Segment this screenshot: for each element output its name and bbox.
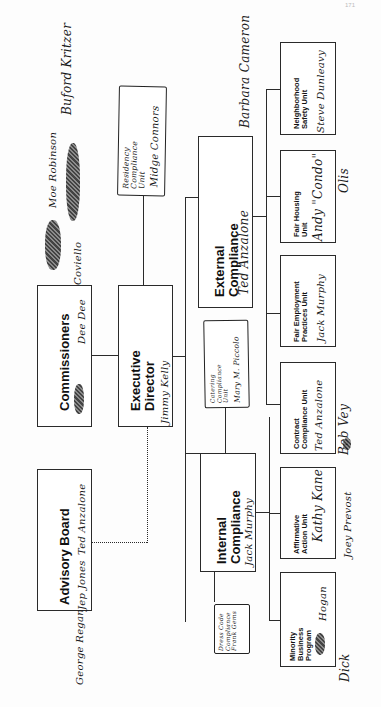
- scribbled-name: [66, 143, 80, 221]
- unit-handwritten-name-2: Joey Prevost: [342, 491, 353, 558]
- connector-spine-external: [185, 197, 198, 198]
- scribbled-name: [343, 438, 351, 450]
- dotted-exec-advisory-v: [147, 427, 148, 543]
- unit-label-line2: Action Unit: [301, 514, 309, 554]
- internal-label-line1: Internal: [215, 490, 229, 564]
- handwritten-moe-robinson: Moe Robinson: [47, 132, 58, 208]
- scribbled-name: [315, 633, 325, 655]
- unit-handwritten-name: Steve Dunleavy: [315, 50, 326, 133]
- unit-affirmative-action: Affirmative Action Unit Kathy Kane: [280, 467, 336, 559]
- unit-label: Contract Compliance Unit: [293, 390, 309, 449]
- external-compliance-box: External Compliance Ted Anzalone: [198, 136, 253, 308]
- executive-director-box: Executive Director Jimmy Kelly: [118, 285, 173, 427]
- unit-label-line3: Program: [305, 628, 313, 661]
- executive-director-handwritten-name: Jimmy Kelly: [159, 361, 170, 424]
- unit-handwritten-name: Ted Anzalone: [313, 380, 324, 451]
- external-compliance-handwritten-name: Ted Anzalone: [239, 210, 250, 295]
- unit-handwritten-name: Andy "Condo": [313, 153, 324, 241]
- unit-minority-business: Minority Business Program Hogan: [280, 572, 336, 667]
- note-line: Unit: [222, 364, 229, 403]
- connector-residency-note: [143, 196, 144, 285]
- scanned-document-page: 171 Commissioners Dee Dee Executive Dire…: [0, 0, 381, 707]
- unit-handwritten-name-2: Olis: [339, 168, 350, 193]
- unit-label-line2: Compliance Unit: [301, 390, 309, 449]
- external-label-line1: External: [213, 223, 227, 297]
- advisory-board-label: Advisory Board: [58, 508, 71, 605]
- commissioners-label: Commissioners: [58, 313, 71, 411]
- connector-catering-note: [225, 408, 226, 453]
- handwritten-jep-jones: Jep Jones: [76, 560, 87, 610]
- unit-neighborhood-safety: Neighborhood Safety Unit Steve Dunleavy: [280, 42, 336, 135]
- unit-contract-compliance: Contract Compliance Unit Ted Anzalone: [280, 362, 336, 454]
- unit-handwritten-name: Jack Murphy: [315, 274, 326, 342]
- connector-internal-units: [256, 512, 269, 513]
- residency-note-name: Midge Connors: [148, 105, 160, 187]
- unit-label: Minority Business Program: [289, 628, 313, 661]
- internal-unit-spine: [269, 417, 270, 621]
- catering-note-name: Mary M. Piccolo: [233, 336, 242, 403]
- connector-commissioners-exec: [92, 355, 118, 356]
- handwritten-george-regan: George Regan: [74, 609, 85, 685]
- dress-code-note-box: Dress Code Compliance Frank Gems: [214, 604, 250, 654]
- exec-label-line2: Director: [143, 350, 157, 411]
- unit-label: Affirmative Action Unit: [293, 514, 309, 554]
- connector-external-units: [253, 216, 266, 217]
- branch-affirmative: [269, 513, 280, 514]
- scribbled-name: [74, 384, 84, 414]
- handwritten-coviello: Coviello: [72, 242, 83, 285]
- dress-code-note-text: Dress Code Compliance Frank Gems: [218, 611, 238, 651]
- scribbled-name: [45, 220, 61, 270]
- internal-compliance-handwritten-name: Jack Murphy: [243, 498, 254, 566]
- connector-exec-spine: [173, 356, 185, 357]
- branch-fair-housing: [266, 196, 280, 197]
- catering-note-text: Catering Compliance Unit: [209, 364, 229, 403]
- unit-label: Fair Employment Practices Unit: [293, 281, 309, 342]
- executive-director-label: Executive Director: [129, 350, 157, 411]
- handwritten-buford-kritzer: Buford Kritzer: [62, 23, 73, 115]
- branch-fair-employment: [266, 313, 280, 314]
- unit-label: Fair Housing Unit: [293, 191, 309, 237]
- connector-dresscode-note: [214, 572, 215, 602]
- external-unit-spine: [266, 89, 267, 404]
- unit-fair-housing: Fair Housing Unit Andy "Condo": [280, 150, 336, 243]
- dotted-exec-advisory-h: [92, 542, 147, 543]
- catering-note-box: Catering Compliance Unit Mary M. Piccolo: [203, 320, 250, 409]
- unit-label-line2: Safety Unit: [301, 78, 309, 129]
- unit-handwritten-name: Hogan: [317, 586, 328, 621]
- handwritten-ted-anzalone: Ted Anzalone: [76, 484, 87, 555]
- residency-note-text: Residency Compliance Unit: [122, 141, 147, 189]
- branch-minority: [269, 620, 280, 621]
- unit-label-line2: Unit: [301, 191, 309, 237]
- commissioners-box: Commissioners Dee Dee: [37, 285, 92, 427]
- branch-neighborhood: [266, 89, 280, 90]
- note-line: Unit: [138, 141, 147, 189]
- handwritten-barbara-cameron: Barbara Cameron: [240, 15, 251, 128]
- branch-contract: [266, 404, 280, 405]
- residency-note-box: Residency Compliance Unit Midge Connors: [117, 86, 167, 197]
- page-number: 171: [345, 2, 355, 8]
- internal-compliance-box: Internal Compliance Jack Murphy: [200, 453, 256, 572]
- commissioners-handwritten-name: Dee Dee: [76, 299, 87, 344]
- unit-fair-employment: Fair Employment Practices Unit Jack Murp…: [280, 255, 336, 347]
- unit-label-line2: Practices Unit: [301, 281, 309, 342]
- note-line: Frank Gems: [231, 611, 238, 651]
- unit-handwritten-name-2: Dick: [340, 653, 351, 682]
- unit-handwritten-name: Kathy Kane: [313, 469, 324, 542]
- internal-label-line2: Compliance: [229, 490, 243, 564]
- connector-spine-internal: [185, 453, 200, 454]
- main-spine: [185, 197, 186, 622]
- internal-compliance-label: Internal Compliance: [215, 490, 243, 564]
- unit-label: Neighborhood Safety Unit: [293, 78, 309, 129]
- exec-label-line1: Executive: [129, 350, 143, 411]
